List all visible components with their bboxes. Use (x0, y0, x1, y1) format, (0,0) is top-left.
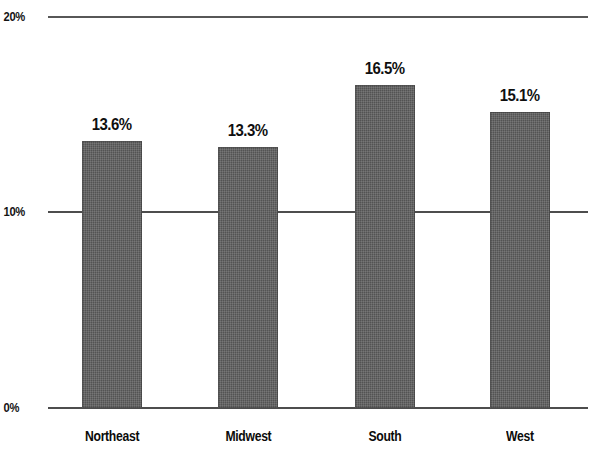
x-axis-label-west: West (450, 428, 590, 444)
bar-south (355, 85, 415, 408)
x-axis-label-south: South (315, 428, 455, 444)
bar-value-label-south: 16.5% (330, 59, 440, 79)
bar-value-label-northeast: 13.6% (57, 115, 167, 135)
bar-midwest (218, 147, 278, 408)
bar-west (490, 112, 550, 408)
gridline-20-percent (48, 16, 588, 18)
bar-chart: 20% 10% 0% 13.6% 13.3% 16.5% 15.1% North… (0, 0, 594, 455)
bar-value-label-midwest: 13.3% (193, 121, 303, 141)
bar-northeast (82, 141, 142, 408)
y-axis-tick-0: 0% (0, 400, 38, 415)
x-axis-label-midwest: Midwest (178, 428, 318, 444)
bar-value-label-west: 15.1% (465, 86, 575, 106)
y-axis-tick-10: 10% (0, 204, 38, 219)
x-axis-label-northeast: Northeast (42, 428, 182, 444)
plot-area: 20% 10% 0% 13.6% 13.3% 16.5% 15.1% North… (0, 0, 594, 455)
y-axis-tick-20: 20% (0, 9, 38, 24)
